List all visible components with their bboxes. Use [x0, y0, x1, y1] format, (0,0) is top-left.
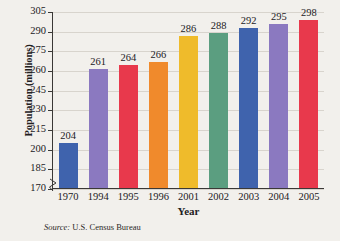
y-tick-label: 260	[16, 64, 46, 75]
bar-slot: 261	[83, 12, 113, 188]
bar-value-label: 295	[271, 11, 287, 22]
x-tick-label: 2002	[204, 191, 234, 202]
x-tick-label: 2001	[173, 191, 203, 202]
x-axis-tick-labels: 197019941995199620012002200320042005	[53, 191, 324, 202]
y-tick-label: 275	[16, 44, 46, 55]
bar-slot: 286	[173, 12, 203, 188]
bar-value-label: 266	[151, 49, 167, 60]
bar-slot: 264	[113, 12, 143, 188]
x-tick-label: 1970	[53, 191, 83, 202]
bar-value-label: 204	[60, 130, 76, 141]
y-tick-label: 305	[16, 5, 46, 16]
bar-value-label: 288	[211, 20, 227, 31]
bar: 292	[239, 28, 258, 188]
gridline	[53, 189, 324, 190]
y-tick-label: 290	[16, 25, 46, 36]
x-tick-label: 1994	[83, 191, 113, 202]
bar-value-label: 261	[90, 56, 106, 67]
y-tick-label: 245	[16, 84, 46, 95]
y-tick-label: 170	[16, 182, 46, 193]
y-tick-label: 185	[16, 162, 46, 173]
x-tick-label: 1995	[113, 191, 143, 202]
bar-slot: 292	[234, 12, 264, 188]
bar: 264	[119, 65, 138, 188]
source-keyword: Source:	[44, 222, 70, 232]
bar-slot: 266	[143, 12, 173, 188]
x-axis-title: Year	[53, 205, 324, 217]
source-text: U.S. Census Bureau	[72, 222, 140, 232]
y-tick-label: 215	[16, 123, 46, 134]
x-tick-label: 2003	[234, 191, 264, 202]
y-tick-label: 200	[16, 143, 46, 154]
bar: 288	[209, 33, 228, 188]
bar: 261	[89, 69, 108, 188]
y-tick-label: 230	[16, 103, 46, 114]
bar-slot: 298	[294, 12, 324, 188]
bar: 298	[299, 20, 318, 188]
source-note: Source: U.S. Census Bureau	[44, 222, 141, 232]
bar-value-label: 286	[181, 23, 197, 34]
bar-slot: 295	[264, 12, 294, 188]
x-tick-label: 2004	[264, 191, 294, 202]
bar-value-label: 264	[120, 52, 136, 63]
bar: 286	[179, 36, 198, 188]
bar-value-label: 292	[241, 15, 257, 26]
bar: 295	[269, 24, 288, 188]
x-tick-label: 2005	[294, 191, 324, 202]
bar-series: 204261264266286288292295298	[53, 12, 324, 188]
bar: 266	[149, 62, 168, 188]
bar-slot: 204	[53, 12, 83, 188]
plot-area: 170185200215230245260275290305 204261264…	[52, 12, 324, 189]
bar: 204	[59, 143, 78, 188]
bar-value-label: 298	[301, 7, 317, 18]
bar-slot: 288	[204, 12, 234, 188]
x-tick-label: 1996	[143, 191, 173, 202]
bar-chart: Population (millions) 170185200215230245…	[0, 0, 340, 241]
